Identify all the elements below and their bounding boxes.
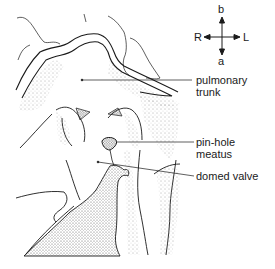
label-line: trunk [196, 86, 247, 98]
label-pulmonary-trunk: pulmonary trunk [196, 74, 247, 98]
anatomical-diagram: b a R L pulmonary trunk pin-hole meatus … [0, 0, 275, 269]
domed-valve-body [24, 165, 129, 256]
compass-right-label: L [243, 32, 249, 43]
orientation-compass [204, 17, 240, 55]
label-line: domed valve [196, 170, 258, 182]
label-line: pulmonary [196, 74, 247, 86]
label-line: pin-hole [196, 136, 235, 148]
label-domed-valve: domed valve [196, 170, 258, 182]
heart-drawing [0, 0, 275, 269]
compass-top-label: b [218, 4, 224, 15]
label-line: meatus [196, 148, 235, 160]
cusp-left [76, 108, 90, 120]
label-pin-hole-meatus: pin-hole meatus [196, 136, 235, 160]
pin-hole-meatus-shape [102, 137, 117, 150]
compass-bottom-label: a [218, 56, 224, 67]
outer-tissue-lines [17, 14, 160, 79]
trunk-shading [18, 60, 64, 111]
compass-left-label: R [194, 32, 202, 43]
